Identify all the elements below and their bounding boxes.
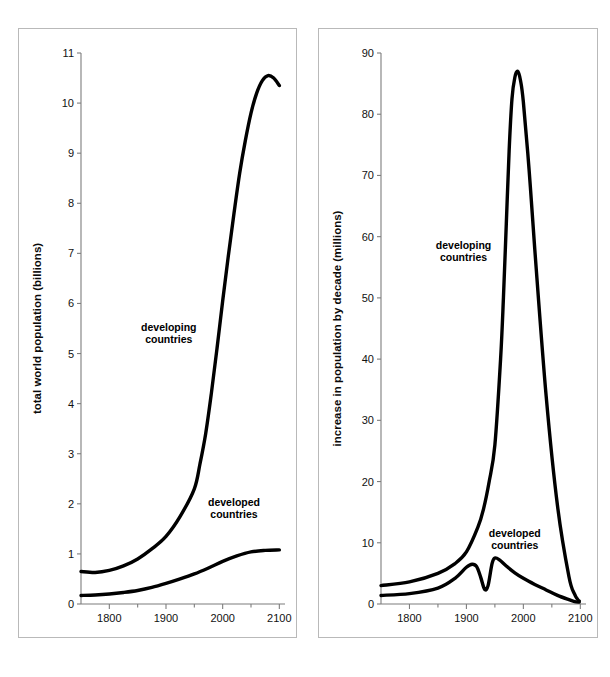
y-axis-title: total world population (billions) <box>31 243 43 414</box>
y-tick-label: 9 <box>68 147 74 159</box>
y-tick-label: 1 <box>68 548 74 560</box>
x-tick-label: 1800 <box>97 612 121 624</box>
y-tick-label: 7 <box>68 247 74 259</box>
series-annotation-line1: developing <box>436 239 491 251</box>
y-tick-label: 3 <box>68 448 74 460</box>
y-tick-label: 10 <box>362 537 374 549</box>
series-line-developing-countries <box>381 71 579 601</box>
series-annotation-line1: developed <box>208 496 260 508</box>
x-axis-title: years <box>468 634 498 637</box>
y-tick-label: 11 <box>63 47 74 59</box>
y-tick-label: 5 <box>68 348 74 360</box>
chart-panel-total-world-population: 012345678910111800190020002100developing… <box>18 28 297 638</box>
chart-panel-increase-by-decade: 01020304050607080901800190020002100devel… <box>318 28 598 638</box>
x-tick-label: 1900 <box>454 612 478 624</box>
x-tick-label: 1900 <box>154 612 178 624</box>
figure-stage: 012345678910111800190020002100developing… <box>0 0 610 677</box>
series-annotation-line2: countries <box>210 508 257 520</box>
x-axis-title: years <box>168 634 198 637</box>
series-line-developed-countries <box>81 550 279 596</box>
y-tick-label: 8 <box>68 197 74 209</box>
y-tick-label: 2 <box>68 498 74 510</box>
y-tick-label: 70 <box>362 169 374 181</box>
chart-svg-total-world-population: 012345678910111800190020002100developing… <box>19 29 296 637</box>
y-axis-title: increase in population by decade (millio… <box>331 210 343 446</box>
y-tick-label: 50 <box>362 292 374 304</box>
y-tick-label: 0 <box>68 598 74 610</box>
series-annotation-line2: countries <box>491 539 538 551</box>
y-tick-label: 10 <box>62 97 74 109</box>
series-annotation-line1: developed <box>489 527 541 539</box>
chart-svg-increase-by-decade: 01020304050607080901800190020002100devel… <box>319 29 597 637</box>
x-tick-label: 2100 <box>568 612 592 624</box>
series-annotation-line1: developing <box>141 321 196 333</box>
y-tick-label: 60 <box>362 231 374 243</box>
y-tick-label: 90 <box>362 47 374 59</box>
y-tick-label: 6 <box>68 297 74 309</box>
y-tick-label: 40 <box>362 353 374 365</box>
x-tick-label: 1800 <box>397 612 421 624</box>
y-tick-label: 4 <box>68 398 74 410</box>
y-tick-label: 80 <box>362 108 374 120</box>
x-tick-label: 2000 <box>210 612 234 624</box>
y-tick-label: 30 <box>362 414 374 426</box>
y-tick-label: 20 <box>362 476 374 488</box>
series-annotation-line2: countries <box>440 251 487 263</box>
x-tick-label: 2000 <box>511 612 535 624</box>
x-tick-label: 2100 <box>267 612 291 624</box>
series-annotation-line2: countries <box>145 333 192 345</box>
y-tick-label: 0 <box>368 598 374 610</box>
